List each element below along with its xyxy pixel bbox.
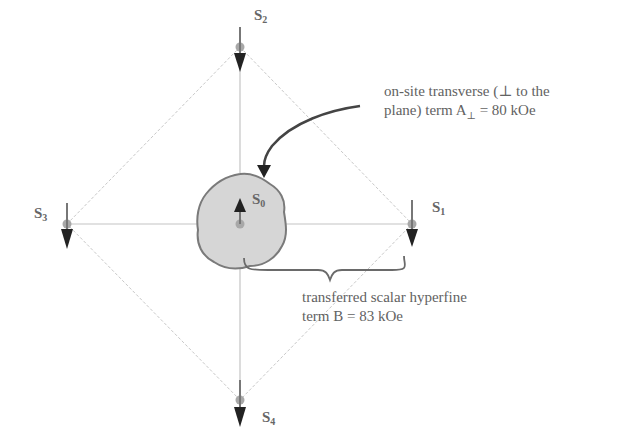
spin-arrow-s2 — [234, 27, 246, 72]
spin-arrow-s4 — [234, 380, 246, 427]
scalar-term-note: transferred scalar hyperfine term B = 83… — [302, 288, 467, 326]
transverse-line2-prefix: plane) term A — [384, 102, 466, 118]
site-label-s4: S4 — [262, 410, 275, 427]
site-subscript: 2 — [262, 14, 267, 25]
site-label-s1: S1 — [432, 200, 445, 217]
scalar-line1: transferred scalar hyperfine — [302, 288, 467, 307]
site-label-s0: S0 — [252, 192, 265, 209]
transverse-line2: plane) term A⊥ = 80 kOe — [384, 101, 550, 125]
site-subscript: 1 — [440, 206, 445, 217]
hyperfine-diagram — [0, 0, 644, 444]
site-label-s3: S3 — [34, 206, 47, 223]
transverse-value: = 80 kOe — [476, 102, 536, 118]
perp-subscript: ⊥ — [466, 110, 475, 121]
transverse-term-note: on-site transverse (⊥ to the plane) term… — [384, 82, 550, 125]
transverse-line1: on-site transverse (⊥ to the — [384, 82, 550, 101]
site-label-s2: S2 — [254, 8, 267, 25]
spin-arrow-s3 — [61, 203, 73, 249]
site-subscript: 0 — [260, 198, 265, 209]
scalar-line2: term B = 83 kOe — [302, 307, 467, 326]
site-subscript: 3 — [42, 212, 47, 223]
site-subscript: 4 — [270, 416, 275, 427]
